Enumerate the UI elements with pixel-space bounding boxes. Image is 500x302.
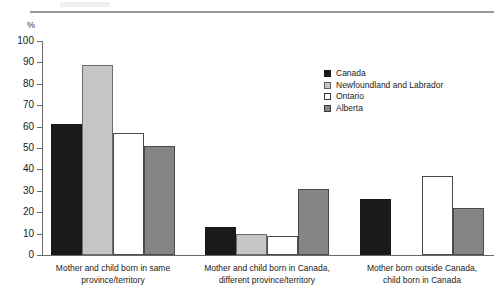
x-axis-category-label: Mother born outside Canada,child born in… — [343, 262, 500, 286]
bar-alberta — [453, 208, 484, 255]
y-axis-tick-label-wrap: 40 — [0, 164, 34, 174]
legend-swatch-icon — [324, 105, 331, 112]
y-axis-tick-label: 60 — [4, 122, 34, 132]
x-axis-category-label-line: different province/territory — [188, 274, 346, 286]
y-axis-tick — [37, 255, 42, 256]
y-axis-tick-label: 40 — [4, 164, 34, 174]
y-axis-tick-label: 100 — [4, 36, 34, 46]
y-axis-tick-label: 0 — [4, 250, 34, 260]
legend-swatch-icon — [324, 82, 331, 89]
legend-item-label: Newfoundland and Labrador — [336, 80, 443, 92]
x-axis-line — [42, 255, 494, 256]
scan-artifact — [60, 2, 110, 7]
y-axis-tick-label-wrap: 80 — [0, 79, 34, 89]
legend-item-ontario: Ontario — [324, 91, 443, 103]
bar-group — [51, 41, 175, 255]
header-rule — [30, 11, 494, 13]
bar-nl — [82, 65, 113, 255]
legend-item-canada: Canada — [324, 68, 443, 80]
y-axis-tick-label-wrap: 10 — [0, 229, 34, 239]
x-axis-category-label: Mother and child born in Canada,differen… — [188, 262, 346, 286]
y-axis-tick-label: 80 — [4, 79, 34, 89]
legend-item-nl: Newfoundland and Labrador — [324, 80, 443, 92]
bar-alberta — [144, 146, 175, 255]
y-axis-tick-label-wrap: 90 — [0, 57, 34, 67]
x-axis-category-label: Mother and child born in sameprovince/te… — [34, 262, 192, 286]
y-axis-tick-label-wrap: 70 — [0, 100, 34, 110]
bar-canada — [205, 227, 236, 255]
x-axis-category-label-line: child born in Canada — [343, 274, 500, 286]
y-axis-tick-label-wrap: 100 — [0, 36, 34, 46]
legend-item-alberta: Alberta — [324, 103, 443, 115]
y-axis-unit-label: % — [27, 20, 35, 30]
x-axis-category-label-line: Mother born outside Canada, — [343, 262, 500, 274]
y-axis-tick-label-wrap: 20 — [0, 207, 34, 217]
bar-nl — [236, 234, 267, 255]
x-axis-category-label-line: province/territory — [34, 274, 192, 286]
y-axis-tick-label-wrap: 50 — [0, 143, 34, 153]
bar-alberta — [298, 189, 329, 255]
legend-item-label: Canada — [336, 68, 366, 80]
bar-ontario — [422, 176, 453, 255]
bar-ontario — [267, 236, 298, 255]
legend-swatch-icon — [324, 70, 331, 77]
y-axis-tick-label-wrap: 60 — [0, 122, 34, 132]
y-axis-tick-label: 50 — [4, 143, 34, 153]
y-axis-tick-label: 90 — [4, 57, 34, 67]
y-axis-tick-label-wrap: 0 — [0, 250, 34, 260]
y-axis-tick-label: 20 — [4, 207, 34, 217]
bar-group — [205, 41, 329, 255]
x-axis-category-label-line: Mother and child born in Canada, — [188, 262, 346, 274]
y-axis-tick-label: 10 — [4, 229, 34, 239]
bar-ontario — [113, 133, 144, 255]
legend-swatch-icon — [324, 93, 331, 100]
bar-canada — [360, 199, 391, 255]
y-axis-tick-label-wrap: 30 — [0, 186, 34, 196]
x-axis-category-label-line: Mother and child born in same — [34, 262, 192, 274]
bar-canada — [51, 124, 82, 255]
chart-legend: CanadaNewfoundland and LabradorOntarioAl… — [324, 68, 443, 114]
y-axis-tick-label: 70 — [4, 100, 34, 110]
legend-item-label: Alberta — [336, 103, 363, 115]
legend-item-label: Ontario — [336, 91, 364, 103]
y-axis-tick-label: 30 — [4, 186, 34, 196]
